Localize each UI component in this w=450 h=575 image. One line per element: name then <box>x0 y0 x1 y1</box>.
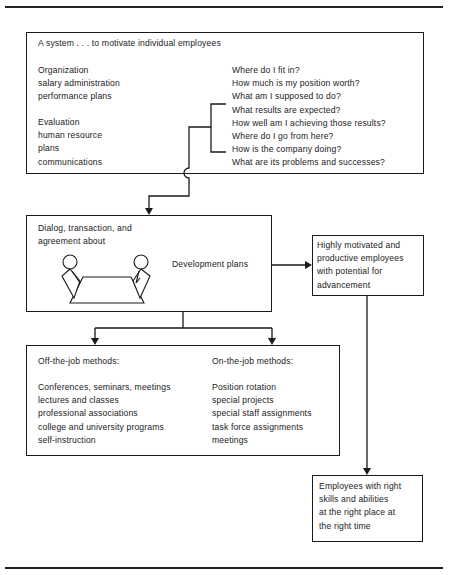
arrow-down-icon <box>91 338 99 345</box>
bracket-connector <box>149 127 211 209</box>
connector-layer <box>0 0 450 575</box>
fork-line <box>95 312 272 339</box>
question-bracket <box>211 104 226 152</box>
arrow-down-icon <box>145 208 153 215</box>
arrow-right-icon <box>305 261 312 269</box>
arrow-down-icon <box>363 468 371 475</box>
arrow-down-icon <box>268 338 276 345</box>
meeting-illustration-icon <box>62 255 150 303</box>
